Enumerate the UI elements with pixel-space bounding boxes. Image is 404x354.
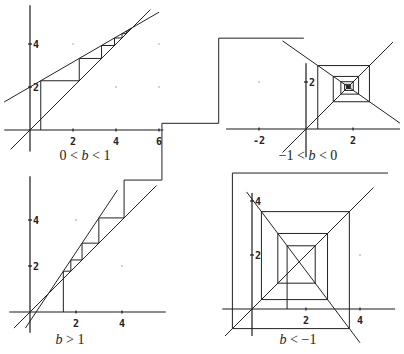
panel-br: 2424	[222, 173, 395, 343]
cobweb-figure: 24624-22224242424	[0, 0, 404, 354]
caption-br: b < −1	[280, 332, 317, 348]
x-tick-label: 2	[350, 135, 356, 146]
identity-line	[11, 10, 151, 150]
y-tick-label: 4	[255, 196, 261, 207]
grid-dot	[258, 81, 260, 83]
x-tick-label: 4	[119, 318, 125, 329]
y-tick-label: 2	[33, 261, 39, 272]
x-tick-label: 4	[357, 315, 363, 326]
panel-tl: 24624	[4, 5, 163, 151]
x-tick-label: 6	[156, 136, 162, 147]
caption-tr: −1 < b < 0	[279, 148, 338, 164]
grid-dot	[359, 254, 361, 256]
x-tick-label: -2	[253, 135, 265, 146]
cobweb-path	[318, 66, 370, 129]
y-tick-label: 4	[33, 39, 39, 50]
grid-dot	[115, 86, 117, 88]
y-tick-label: 2	[309, 77, 315, 88]
y-tick-label: 2	[255, 250, 261, 261]
cobweb-path	[41, 28, 132, 130]
grid-dot	[75, 219, 77, 221]
map-line	[25, 190, 117, 328]
identity-line	[283, 42, 393, 152]
x-tick-label: 2	[70, 136, 76, 147]
grid-dot	[72, 43, 74, 45]
identity-line	[14, 186, 157, 329]
x-tick-label: 2	[73, 318, 79, 329]
panel-tr: -222	[226, 41, 400, 157]
map-line	[4, 12, 159, 102]
cobweb-path	[63, 38, 303, 312]
x-tick-label: 2	[303, 315, 309, 326]
y-tick-label: 4	[33, 215, 39, 226]
caption-bl: b > 1	[56, 332, 85, 348]
grid-dot	[158, 86, 160, 88]
x-tick-label: 4	[113, 136, 119, 147]
grid-dot	[158, 43, 160, 45]
grid-dot	[121, 265, 123, 267]
caption-tl: 0 < b < 1	[60, 148, 111, 164]
